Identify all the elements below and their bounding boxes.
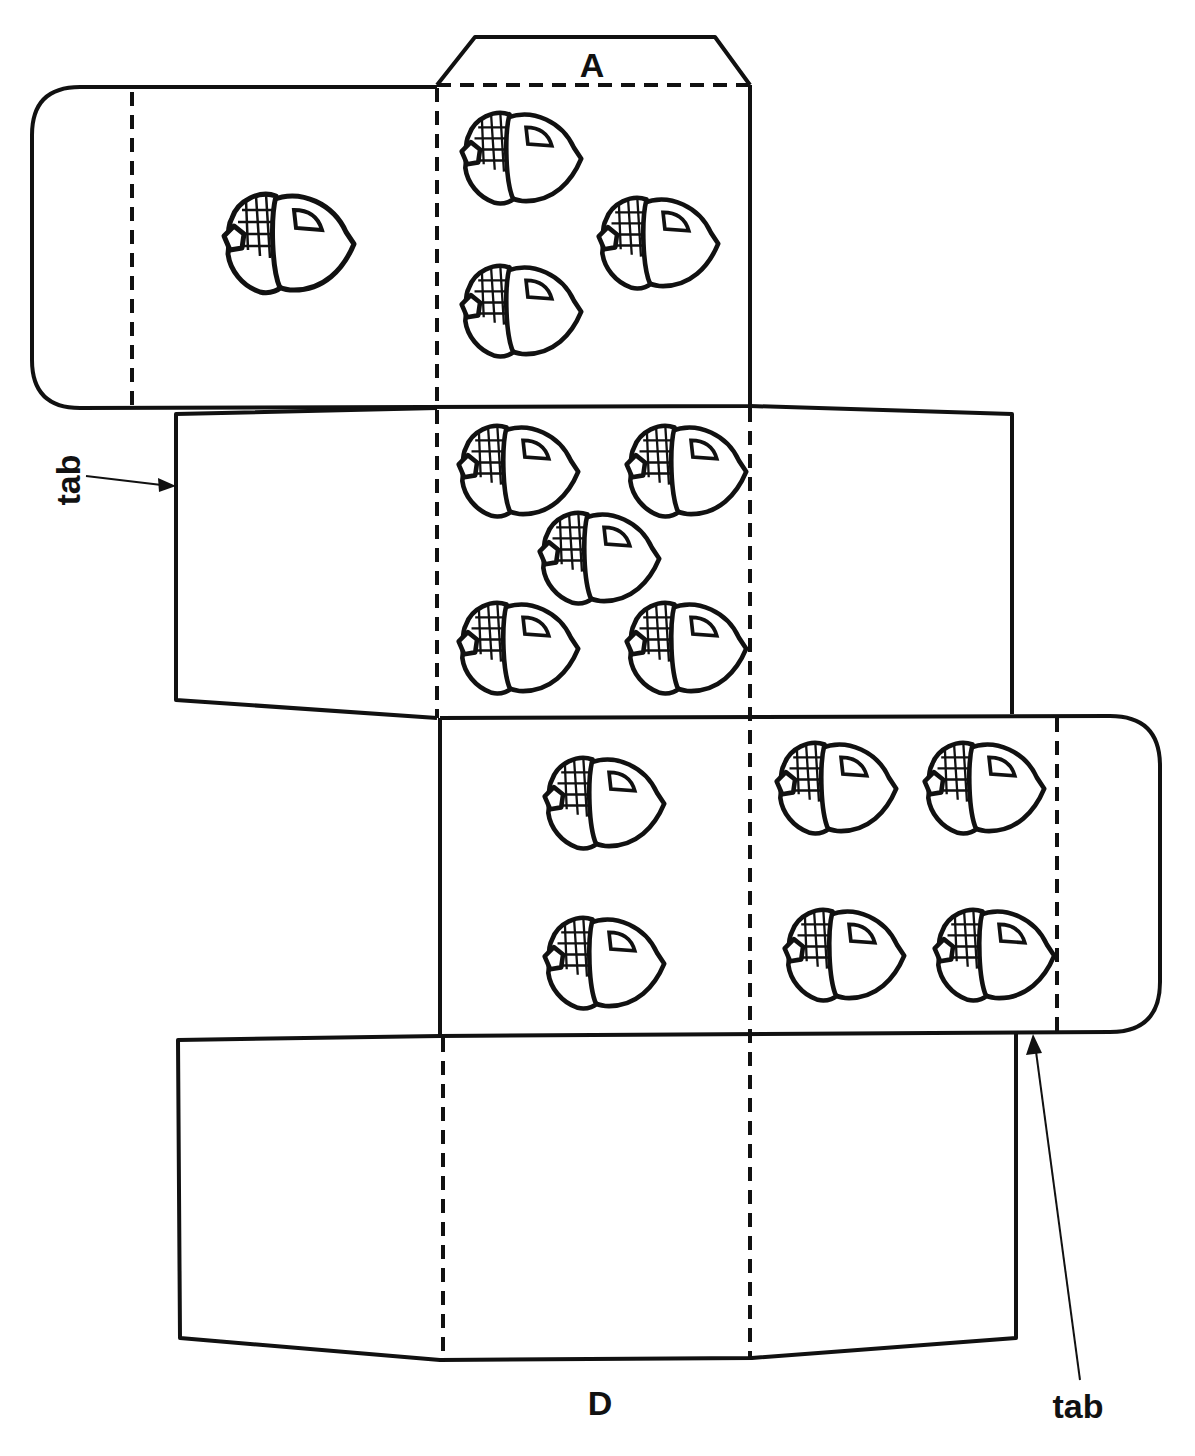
acorn-icon-group <box>224 113 1054 1009</box>
label-tab-left: tab <box>49 455 87 506</box>
acorn-icon <box>459 603 579 694</box>
acorn-icon <box>627 426 747 517</box>
label-d: D <box>588 1384 613 1422</box>
acorn-icon <box>777 743 897 834</box>
acorn-icon <box>627 603 747 694</box>
acorn-icon <box>785 910 905 1001</box>
label-tab-right: tab <box>1053 1387 1104 1425</box>
acorn-icon <box>459 426 579 517</box>
acorn-icon <box>462 266 582 357</box>
acorn-icon <box>925 743 1045 834</box>
acorn-icon <box>599 198 719 289</box>
bottom-row-outline <box>178 1034 1016 1360</box>
acorn-icon <box>935 910 1055 1001</box>
acorn-icon <box>224 194 354 293</box>
acorn-icon <box>462 113 582 204</box>
box-net-diagram: A D tab tab <box>0 0 1195 1456</box>
acorn-icon <box>545 758 665 849</box>
label-a: A <box>580 46 605 84</box>
acorn-icon <box>545 918 665 1009</box>
acorn-icon <box>540 513 660 604</box>
